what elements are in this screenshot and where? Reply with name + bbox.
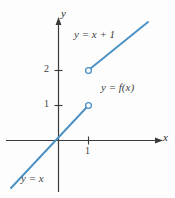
x-axis-arrowhead [155, 138, 163, 144]
piecewise-function-figure: y x 2 1 1 y = x + 1 y = f(x) y = x [0, 0, 175, 198]
y-axis-label: y [61, 8, 66, 19]
y-tick-label-2: 2 [44, 64, 49, 74]
function-equation-label: y = f(x) [101, 82, 134, 93]
x-tick-label-1: 1 [85, 146, 90, 156]
x-axis-label: x [163, 132, 168, 143]
y-tick-label-1: 1 [44, 99, 49, 109]
open-endpoint-at-1-1 [86, 103, 92, 109]
lower-branch-equation-label: y = x [21, 173, 44, 184]
upper-branch-equation-label: y = x + 1 [74, 29, 115, 40]
open-endpoint-at-1-2 [86, 68, 92, 74]
